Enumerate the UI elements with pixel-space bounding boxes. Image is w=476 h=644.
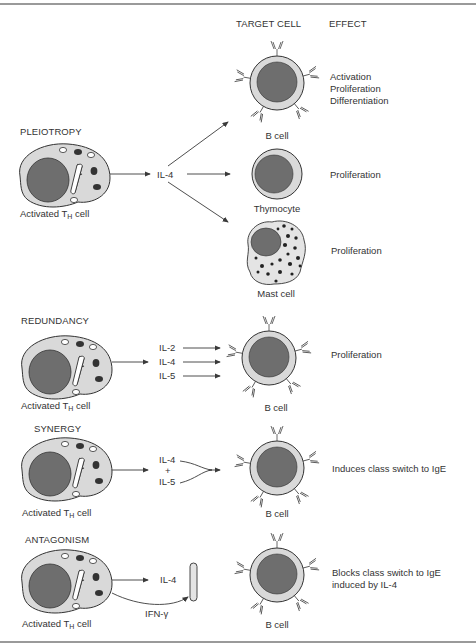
effect-line: Blocks class switch to IgE <box>332 567 441 578</box>
b-cell-antagonism <box>235 533 320 614</box>
effect-line: Induces class switch to IgE <box>332 463 446 474</box>
th-cell-label: Activated TH cell <box>20 208 89 222</box>
th-cell-label: Activated TH cell <box>22 618 91 632</box>
header-effect: EFFECT <box>329 18 367 29</box>
target-cell-label: B cell <box>265 130 288 141</box>
effect-line: Proliferation <box>331 245 382 256</box>
effect-line: induced by IL-4 <box>332 579 397 590</box>
cytokine-il5: IL-5 <box>159 476 175 487</box>
cytokine-il4: IL-4 <box>159 454 175 465</box>
b-cell-synergy <box>235 426 320 507</box>
cytokine-il4: IL-4 <box>159 356 175 367</box>
b-cell-redundancy <box>227 316 312 397</box>
th-cell-pleiotropy <box>20 144 110 207</box>
th-cell-label: Activated TH cell <box>21 400 90 414</box>
cytokine-il4: IL-4 <box>157 169 173 180</box>
plus-sign: + <box>165 465 171 476</box>
target-cell-label: B cell <box>265 619 288 630</box>
effect-line: Proliferation <box>330 169 381 180</box>
effect-line: Activation <box>330 71 371 82</box>
cytokine-il5: IL-5 <box>159 370 175 381</box>
section-title-pleiotropy: PLEIOTROPY <box>20 126 82 137</box>
th-cell-synergy <box>22 438 112 501</box>
effect-line: Proliferation <box>330 83 381 94</box>
thymocyte <box>252 149 302 199</box>
header-target-cell: TARGET CELL <box>236 18 301 29</box>
target-cell-label: B cell <box>264 402 287 413</box>
th-cell-redundancy <box>22 336 112 399</box>
section-title-redundancy: REDUNDANCY <box>21 315 89 326</box>
th-cell-label: Activated TH cell <box>22 507 91 521</box>
target-cell-label: Thymocyte <box>254 203 300 214</box>
mast-cell <box>247 221 305 285</box>
th-cell-antagonism <box>22 550 112 613</box>
section-title-synergy: SYNERGY <box>34 423 81 434</box>
target-cell-label: Mast cell <box>257 288 294 299</box>
inhibition-bar <box>190 563 197 601</box>
effect-line: Differentiation <box>330 95 388 106</box>
target-cell-label: B cell <box>265 508 288 519</box>
cytokine-il2: IL-2 <box>159 342 175 353</box>
effect-line: Proliferation <box>331 349 382 360</box>
cytokine-il4: IL-4 <box>160 574 176 585</box>
b-cell-pleiotropy <box>235 41 320 122</box>
cytokine-ifn-gamma: IFN-γ <box>145 608 168 619</box>
section-title-antagonism: ANTAGONISM <box>25 534 89 545</box>
